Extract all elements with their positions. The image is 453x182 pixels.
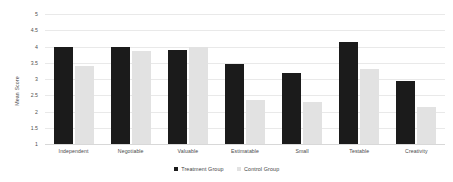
y-tick-label: 1.5 bbox=[8, 125, 38, 131]
y-tick-label: 2.5 bbox=[8, 92, 38, 98]
legend-swatch-icon bbox=[174, 167, 179, 172]
bar-control[interactable] bbox=[246, 100, 265, 144]
plot-area bbox=[45, 14, 445, 144]
bar-group bbox=[216, 14, 273, 144]
bar-control[interactable] bbox=[360, 69, 379, 144]
y-tick-label: 4.5 bbox=[8, 27, 38, 33]
bar-group bbox=[102, 14, 159, 144]
bar-group bbox=[388, 14, 445, 144]
y-tick-label: 4 bbox=[8, 44, 38, 50]
bar-control[interactable] bbox=[303, 102, 322, 144]
bar-control[interactable] bbox=[132, 51, 151, 144]
bar-control[interactable] bbox=[417, 107, 436, 144]
gridline bbox=[45, 144, 445, 145]
legend-item[interactable]: Treatment Group bbox=[174, 166, 224, 172]
bar-group bbox=[331, 14, 388, 144]
bar-treatment[interactable] bbox=[339, 42, 358, 144]
bar-treatment[interactable] bbox=[54, 47, 73, 145]
x-tick-label: Valuable bbox=[159, 148, 216, 154]
bar-treatment[interactable] bbox=[168, 50, 187, 144]
x-tick-label: Estimatable bbox=[216, 148, 273, 154]
legend-item[interactable]: Control Group bbox=[237, 166, 280, 172]
x-tick-label: Testable bbox=[331, 148, 388, 154]
chart-legend: Treatment GroupControl Group bbox=[0, 166, 453, 172]
legend-label: Control Group bbox=[244, 166, 279, 172]
x-tick-label: Negotiable bbox=[102, 148, 159, 154]
y-tick-label: 2 bbox=[8, 109, 38, 115]
bar-chart: Mean Score IndependentNegotiableValuable… bbox=[0, 0, 453, 182]
bar-control[interactable] bbox=[189, 47, 208, 145]
bar-groups bbox=[45, 14, 445, 144]
bar-treatment[interactable] bbox=[111, 47, 130, 144]
x-tick-label: Independent bbox=[45, 148, 102, 154]
x-tick-label: Small bbox=[274, 148, 331, 154]
bar-group bbox=[159, 14, 216, 144]
x-tick-label: Creativity bbox=[388, 148, 445, 154]
bar-treatment[interactable] bbox=[225, 64, 244, 144]
bar-group bbox=[274, 14, 331, 144]
y-tick-label: 3 bbox=[8, 76, 38, 82]
y-tick-label: 5 bbox=[8, 11, 38, 17]
bar-treatment[interactable] bbox=[396, 81, 415, 144]
bar-treatment[interactable] bbox=[282, 73, 301, 145]
y-tick-label: 3.5 bbox=[8, 60, 38, 66]
x-axis-tick-labels: IndependentNegotiableValuableEstimatable… bbox=[45, 148, 445, 154]
y-tick-label: 1 bbox=[8, 141, 38, 147]
legend-swatch-icon bbox=[237, 167, 242, 172]
legend-label: Treatment Group bbox=[181, 166, 223, 172]
bar-group bbox=[45, 14, 102, 144]
bar-control[interactable] bbox=[75, 66, 94, 144]
